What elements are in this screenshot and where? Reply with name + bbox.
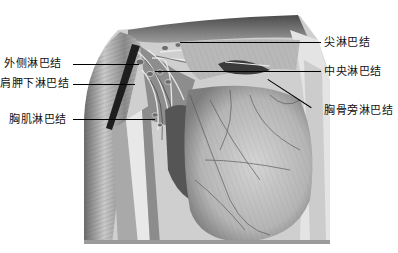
leader-line-lateral <box>73 64 139 65</box>
leader-line-subscapular <box>73 84 135 85</box>
label-apical-lymph-nodes: 尖淋巴结 <box>324 36 370 49</box>
label-pectoral-lymph-nodes: 胸肌淋巴结 <box>9 113 67 126</box>
label-central-lymph-nodes: 中央淋巴结 <box>324 65 382 78</box>
label-parasternal-lymph-nodes: 胸骨旁淋巴结 <box>324 104 393 117</box>
leader-line-pectoral <box>73 119 155 120</box>
anatomy-figure: 外侧淋巴结 肩胛下淋巴结 胸肌淋巴结 尖淋巴结 中央淋巴结 胸骨旁淋巴结 <box>0 0 398 253</box>
label-lateral-lymph-nodes: 外侧淋巴结 <box>4 57 62 70</box>
leader-line-apical <box>180 42 321 43</box>
leader-line-central <box>155 71 321 72</box>
label-subscapular-lymph-nodes: 肩胛下淋巴结 <box>0 77 69 90</box>
